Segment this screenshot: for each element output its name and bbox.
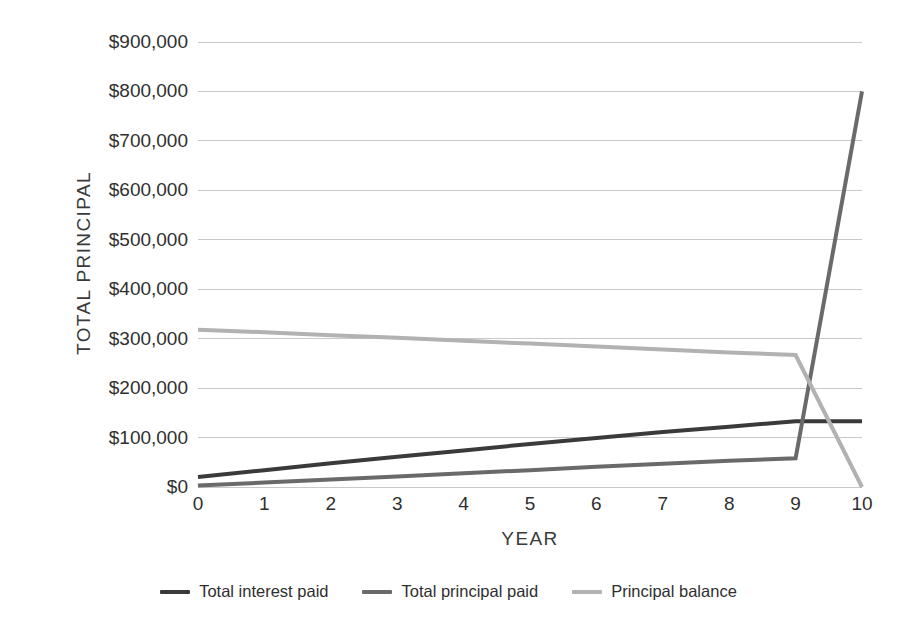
x-tick-label: 4 bbox=[434, 493, 494, 515]
legend-item[interactable]: Total principal paid bbox=[362, 582, 538, 601]
x-axis-title: YEAR bbox=[198, 528, 862, 550]
series-line bbox=[198, 91, 862, 485]
legend-item[interactable]: Total interest paid bbox=[160, 582, 328, 601]
x-axis-tick-labels: 012345678910 bbox=[198, 493, 862, 523]
x-tick-label: 2 bbox=[301, 493, 361, 515]
x-tick-label: 0 bbox=[168, 493, 228, 515]
x-tick-label: 8 bbox=[699, 493, 759, 515]
x-tick-label: 7 bbox=[633, 493, 693, 515]
legend-swatch-icon bbox=[362, 590, 392, 594]
x-tick-label: 9 bbox=[766, 493, 826, 515]
legend-label: Principal balance bbox=[611, 582, 737, 601]
x-tick-label: 10 bbox=[832, 493, 892, 515]
x-tick-label: 1 bbox=[234, 493, 294, 515]
x-tick-label: 6 bbox=[566, 493, 626, 515]
legend-item[interactable]: Principal balance bbox=[572, 582, 737, 601]
legend-label: Total interest paid bbox=[199, 582, 328, 601]
legend-label: Total principal paid bbox=[401, 582, 538, 601]
legend-swatch-icon bbox=[160, 590, 190, 594]
legend-swatch-icon bbox=[572, 590, 602, 594]
series-line bbox=[198, 330, 862, 487]
x-tick-label: 5 bbox=[500, 493, 560, 515]
x-tick-label: 3 bbox=[367, 493, 427, 515]
chart-legend: Total interest paidTotal principal paidP… bbox=[0, 582, 897, 601]
gridlines bbox=[198, 42, 862, 487]
line-chart: TOTAL PRINCIPAL $0$100,000$200,000$300,0… bbox=[0, 0, 897, 638]
